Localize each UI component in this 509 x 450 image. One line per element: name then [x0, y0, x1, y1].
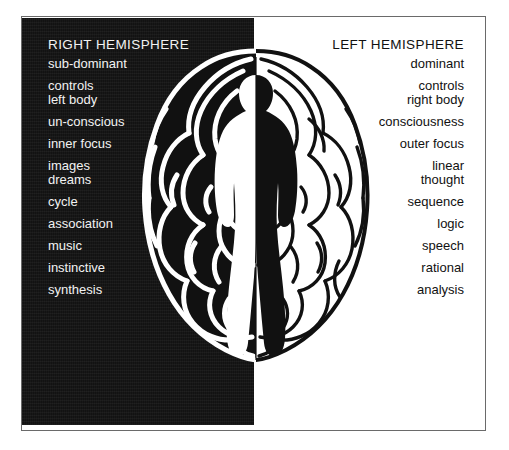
right-term-sub-dominant: sub-dominant	[48, 57, 238, 71]
left-term-linear: linear	[280, 159, 464, 173]
right-hemisphere-heading: RIGHT HEMISPHERE	[48, 38, 238, 53]
left-term-dominant: dominant	[280, 57, 464, 71]
left-term-outer-focus: outer focus	[280, 137, 464, 151]
left-hemisphere-heading: LEFT HEMISPHERE	[280, 38, 464, 53]
left-hemisphere-text-column: LEFT HEMISPHERE dominant controls right …	[280, 38, 464, 297]
left-term-speech: speech	[280, 239, 464, 253]
right-hemisphere-text-column: RIGHT HEMISPHERE sub-dominant controls l…	[48, 38, 238, 297]
right-term-synthesis: synthesis	[48, 283, 238, 297]
right-term-left-body: left body	[48, 93, 238, 107]
right-term-inner-focus: inner focus	[48, 137, 238, 151]
left-term-thought: thought	[280, 173, 464, 187]
left-term-analysis: analysis	[280, 283, 464, 297]
left-term-consciousness: consciousness	[280, 115, 464, 129]
left-term-controls: controls	[280, 79, 464, 93]
right-term-cycle: cycle	[48, 195, 238, 209]
brain-hemisphere-figure: RIGHT HEMISPHERE sub-dominant controls l…	[0, 0, 509, 450]
right-term-association: association	[48, 217, 238, 231]
left-term-rational: rational	[280, 261, 464, 275]
right-term-music: music	[48, 239, 238, 253]
right-term-un-conscious: un-conscious	[48, 115, 238, 129]
right-term-instinctive: instinctive	[48, 261, 238, 275]
left-term-sequence: sequence	[280, 195, 464, 209]
right-term-dreams: dreams	[48, 173, 238, 187]
right-term-controls: controls	[48, 79, 238, 93]
left-term-right-body: right body	[280, 93, 464, 107]
right-term-images: images	[48, 159, 238, 173]
left-term-logic: logic	[280, 217, 464, 231]
